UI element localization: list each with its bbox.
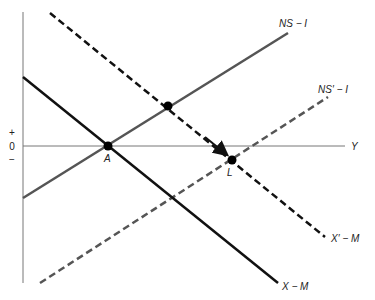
y-tick-plus: + [9, 127, 15, 138]
point-l [228, 156, 237, 165]
curve-label-x-m: X − M [281, 281, 309, 292]
point-label-l: L [227, 167, 233, 178]
curve-x-m [23, 77, 278, 283]
point-a [104, 142, 113, 151]
y-tick-minus: − [9, 154, 15, 165]
curve-label-ns-prime-i: NS′ − I [318, 84, 348, 95]
curve-label-x-prime-m: X′ − M [330, 233, 360, 244]
x-axis-label: Y [351, 141, 359, 152]
curve-label-ns-i: NS − I [279, 18, 307, 29]
point-upper-intersection [164, 102, 173, 111]
diagram-canvas: + 0 − Y NS − I NS′ − I X − M X′ − M A L [0, 0, 375, 300]
y-tick-zero: 0 [9, 141, 15, 152]
point-label-a: A [103, 153, 111, 164]
